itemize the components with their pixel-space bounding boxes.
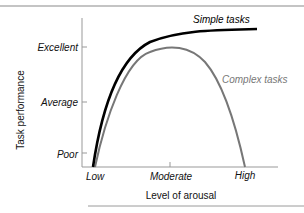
simple-tasks-curve	[93, 29, 257, 167]
simple-tasks-label: Simple tasks	[193, 14, 250, 25]
x-label-high: High	[235, 170, 256, 181]
x-axis-title: Level of arousal	[146, 190, 217, 201]
x-label-moderate: Moderate	[150, 171, 193, 182]
complex-tasks-curve	[95, 47, 245, 167]
complex-tasks-label: Complex tasks	[222, 74, 288, 85]
y-label-poor: Poor	[57, 149, 79, 160]
y-label-excellent: Excellent	[37, 42, 79, 53]
x-label-low: Low	[86, 171, 105, 182]
y-label-average: Average	[40, 97, 79, 108]
arousal-performance-chart: Excellent Average Poor Low Moderate High…	[0, 0, 304, 213]
y-axis-title: Task performance	[15, 70, 26, 150]
